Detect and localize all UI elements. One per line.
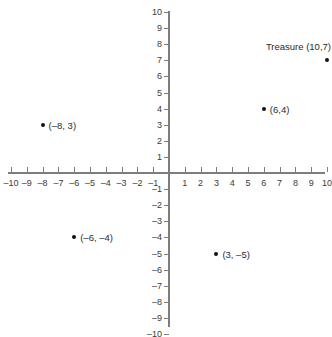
x-tick-mark [106,167,107,172]
y-tick-mark [164,221,169,222]
x-tick-label: 3 [214,179,219,188]
x-tick-mark [11,167,12,172]
y-tick-label: 9 [157,24,162,33]
y-tick-mark [164,93,169,94]
x-axis-line [8,172,325,174]
data-point [41,123,45,127]
y-tick-mark [164,60,169,61]
y-tick-label: –9 [152,313,162,322]
x-tick-label: 9 [309,179,314,188]
x-tick-mark [58,167,59,172]
y-tick-mark [164,189,169,190]
y-tick-mark [164,141,169,142]
y-tick-mark [164,254,169,255]
x-tick-label: –7 [53,179,63,188]
x-tick-label: 10 [322,179,332,188]
x-tick-label: 6 [261,179,266,188]
y-tick-mark [164,302,169,303]
x-tick-mark [327,167,328,172]
x-tick-mark [311,167,312,172]
x-tick-mark [137,167,138,172]
x-tick-label: 7 [277,179,282,188]
data-point [214,252,218,256]
x-tick-label: –3 [117,179,127,188]
x-tick-mark [185,167,186,172]
data-point-label: (–8, 3) [49,121,76,131]
y-tick-label: –4 [152,233,162,242]
x-tick-mark [232,167,233,172]
data-point-label: Treasure (10,7) [266,43,331,53]
x-tick-label: –6 [69,179,79,188]
data-point [262,107,266,111]
y-tick-mark [164,286,169,287]
y-tick-label: –8 [152,297,162,306]
data-point-label: (–6, –4) [80,234,113,244]
x-tick-mark [122,167,123,172]
y-tick-label: –7 [152,281,162,290]
y-tick-mark [164,12,169,13]
x-tick-mark [201,167,202,172]
x-tick-label: 2 [198,179,203,188]
y-tick-label: 6 [157,72,162,81]
y-tick-label: –5 [152,249,162,258]
y-tick-label: –10 [147,330,162,337]
coordinate-plane-chart: –10–9–8–7–6–5–4–3–2–112345678910 1098765… [0,0,332,337]
data-point-label: (6,4) [270,105,290,115]
y-tick-label: 2 [157,136,162,145]
y-tick-mark [164,28,169,29]
y-tick-label: –1 [152,185,162,194]
x-tick-label: –10 [3,179,18,188]
data-point [72,235,76,239]
y-tick-mark [164,270,169,271]
x-tick-mark [27,167,28,172]
x-tick-label: –2 [132,179,142,188]
x-tick-mark [74,167,75,172]
y-tick-mark [164,334,169,335]
y-tick-label: –6 [152,265,162,274]
y-tick-mark [164,125,169,126]
data-point [325,58,329,62]
y-tick-label: 3 [157,120,162,129]
y-tick-mark [164,318,169,319]
x-tick-label: –9 [22,179,32,188]
y-tick-mark [164,76,169,77]
x-tick-label: 5 [245,179,250,188]
y-tick-mark [164,109,169,110]
x-tick-mark [295,167,296,172]
x-tick-mark [280,167,281,172]
x-tick-label: 8 [293,179,298,188]
y-tick-mark [164,205,169,206]
x-tick-mark [43,167,44,172]
y-axis-line [168,11,170,327]
y-tick-mark [164,44,169,45]
x-tick-mark [264,167,265,172]
x-tick-mark [153,167,154,172]
y-tick-label: 4 [157,104,162,113]
y-tick-label: –2 [152,201,162,210]
y-tick-mark [164,157,169,158]
y-tick-mark [164,237,169,238]
x-tick-mark [248,167,249,172]
x-tick-label: –8 [38,179,48,188]
y-tick-label: 10 [152,8,162,17]
x-tick-label: –5 [85,179,95,188]
x-tick-label: 1 [182,179,187,188]
y-tick-label: 5 [157,88,162,97]
y-tick-label: –3 [152,217,162,226]
x-tick-mark [90,167,91,172]
y-tick-label: 1 [157,152,162,161]
y-tick-label: 7 [157,56,162,65]
data-point-label: (3, –5) [222,250,249,260]
y-tick-label: 8 [157,40,162,49]
x-tick-label: 4 [230,179,235,188]
x-tick-label: –4 [101,179,111,188]
x-tick-mark [216,167,217,172]
